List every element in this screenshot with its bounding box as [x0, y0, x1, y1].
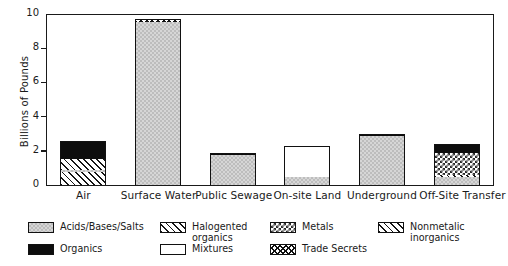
legend-item-organics[interactable]: Organics	[28, 243, 148, 255]
legend-swatch-nonmetallic	[378, 222, 404, 233]
x-tick-label-underground: Underground	[345, 189, 420, 201]
y-tick-label: 6	[33, 75, 39, 87]
y-tick-mark	[41, 82, 46, 83]
x-tick-label-off-site-transfer: Off-Site Transfer	[419, 189, 494, 201]
y-tick-mark	[41, 116, 46, 117]
legend-swatch-acids	[28, 222, 54, 233]
bar-underground[interactable]	[359, 134, 405, 185]
y-tick-mark	[41, 48, 46, 49]
plot-area	[46, 14, 494, 185]
x-tick-label-air: Air	[46, 189, 121, 201]
bar-air[interactable]	[60, 141, 106, 185]
legend-label: Nonmetalic inorganics	[410, 221, 508, 243]
bar-segment-halo	[61, 159, 105, 169]
bar-segment-acids	[435, 177, 479, 185]
legend-swatch-metals	[270, 222, 296, 233]
y-tick-label: 8	[33, 41, 39, 53]
bar-segment-acids	[285, 177, 329, 185]
y-tick-label: 2	[33, 144, 39, 156]
y-tick-label: 10	[26, 7, 39, 19]
y-tick-label: 4	[33, 110, 39, 122]
y-axis-title: Billions of Pounds	[19, 32, 30, 172]
legend-swatch-halo	[160, 222, 186, 233]
legend-label: Mixtures	[192, 243, 233, 255]
legend-item-acids[interactable]: Acids/Bases/Salts	[28, 221, 148, 233]
legend-swatch-trade	[270, 244, 296, 255]
bar-segment-acids	[211, 155, 255, 185]
bar-segment-metals	[435, 153, 479, 175]
x-tick-label-on-site-land: On-site Land	[270, 189, 345, 201]
bar-surface-water[interactable]	[135, 19, 181, 185]
x-tick-label-public-sewage: Public Sewage	[195, 189, 270, 201]
y-tick-label: 0	[33, 178, 39, 190]
legend-item-nonmetallic[interactable]: Nonmetalic inorganics	[378, 221, 508, 243]
bar-segment-acids	[136, 22, 180, 185]
bar-segment-nonmetallic	[61, 172, 105, 185]
x-tick-label-surface-water: Surface Water	[121, 189, 196, 201]
bar-on-site-land[interactable]	[284, 146, 330, 185]
legend-label: Halogented organics	[192, 221, 260, 243]
legend-item-mixtures[interactable]: Mixtures	[160, 243, 260, 255]
bar-segment-mixtures	[285, 146, 329, 178]
x-axis-baseline	[46, 185, 494, 187]
legend-item-metals[interactable]: Metals	[270, 221, 360, 233]
bar-public-sewage[interactable]	[210, 153, 256, 185]
legend-item-trade[interactable]: Trade Secrets	[270, 243, 380, 255]
legend-label: Metals	[302, 221, 333, 233]
legend: Acids/Bases/SaltsHalogented organicsMeta…	[28, 221, 494, 265]
legend-label: Acids/Bases/Salts	[60, 221, 144, 233]
legend-swatch-organics	[28, 244, 54, 255]
legend-label: Trade Secrets	[302, 243, 367, 255]
legend-label: Organics	[60, 243, 102, 255]
y-tick-mark	[41, 150, 46, 151]
bar-off-site-transfer[interactable]	[434, 144, 480, 185]
bar-segment-organics	[61, 141, 105, 160]
bar-segment-acids	[360, 136, 404, 185]
legend-swatch-mixtures	[160, 244, 186, 255]
bar-segment-organics	[435, 144, 479, 153]
legend-item-halo[interactable]: Halogented organics	[160, 221, 260, 243]
